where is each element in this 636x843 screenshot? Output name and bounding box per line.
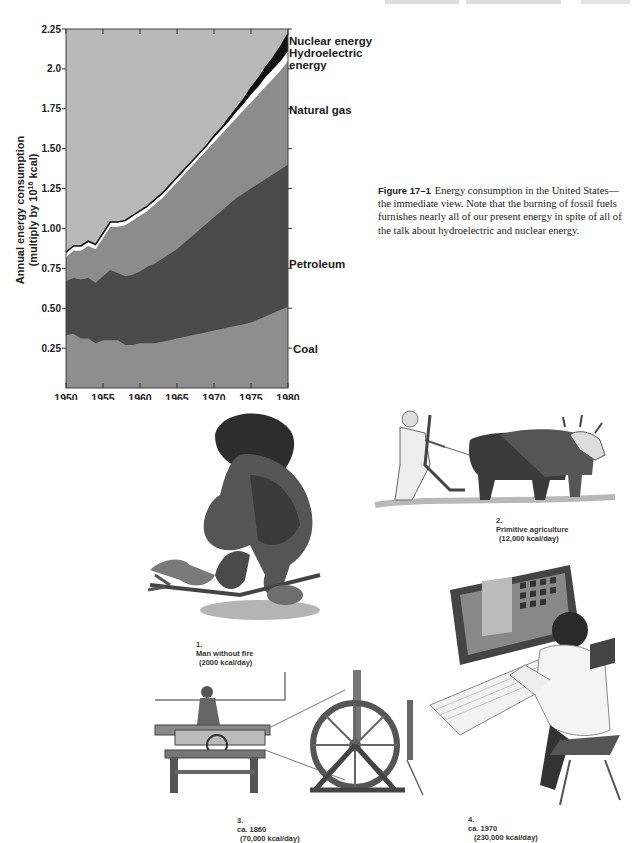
x-tick-label: 1975 bbox=[239, 392, 263, 400]
illustration-3-caption: 3. ca. 1860 (70,000 kcal/day) bbox=[237, 816, 300, 843]
figure-caption: Figure 17–1Energy consumption in the Uni… bbox=[378, 184, 623, 237]
y-tick-label: 2.0 bbox=[47, 63, 61, 74]
lathe-wheel-illustration bbox=[145, 670, 425, 805]
label-petroleum: Petroleum bbox=[289, 258, 345, 270]
y-tick-label: 1.25 bbox=[42, 183, 62, 194]
y-tick-label: 1.00 bbox=[42, 223, 62, 234]
x-tick-label: 1950 bbox=[54, 392, 78, 400]
y-axis-title-units: (multiply by 1016 kcal) bbox=[27, 153, 39, 266]
x-tick-label: 1970 bbox=[202, 392, 226, 400]
label-hydro-line2: energy bbox=[289, 59, 363, 71]
label-hydro-line1: Hydroelectric bbox=[289, 47, 363, 59]
y-tick-label: 0.50 bbox=[42, 303, 62, 314]
y-axis-title: Annual energy consumption bbox=[14, 135, 26, 284]
x-tick-label: 1980 bbox=[276, 392, 300, 400]
y-tick-label: 0.75 bbox=[42, 263, 62, 274]
figure-label: Figure 17–1 bbox=[378, 185, 431, 196]
caveman-illustration bbox=[140, 405, 340, 635]
y-tick-label: 1.50 bbox=[42, 143, 62, 154]
y-tick-label: 0.25 bbox=[42, 343, 62, 354]
illustration-2-caption: 2. Primitive agriculture (12,000 kcal/da… bbox=[496, 516, 569, 543]
chart-plot-area bbox=[66, 29, 288, 388]
x-tick-label: 1960 bbox=[128, 392, 152, 400]
ox-plow-illustration bbox=[370, 405, 620, 515]
label-nuclear-energy: Nuclear energy bbox=[289, 35, 372, 47]
x-tick-label: 1965 bbox=[165, 392, 189, 400]
label-hydroelectric-energy: Hydroelectric energy bbox=[289, 47, 363, 71]
y-tick-label: 1.75 bbox=[42, 103, 62, 114]
computer-operator-illustration bbox=[420, 555, 636, 810]
label-coal: Coal bbox=[293, 343, 318, 355]
y-tick-label: 2.25 bbox=[42, 24, 62, 35]
illustration-1-caption: 1. Man without fire (2000 kcal/day) bbox=[196, 640, 254, 667]
illustration-4-caption: 4. ca. 1970 (230,000 kcal/day) bbox=[468, 815, 538, 842]
x-tick-label: 1955 bbox=[91, 392, 115, 400]
label-natural-gas: Natural gas bbox=[289, 104, 352, 116]
